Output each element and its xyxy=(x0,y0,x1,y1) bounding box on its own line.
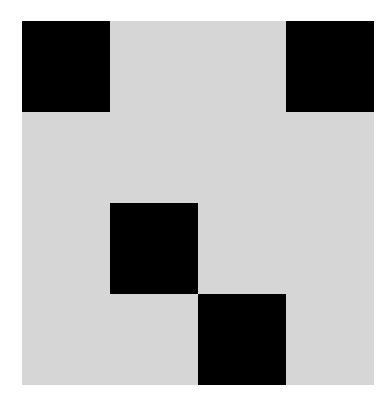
empty-cell-r3-c1[interactable] xyxy=(110,294,198,385)
filled-cell-r2-c1[interactable] xyxy=(110,203,198,294)
empty-cell-r1-c0[interactable] xyxy=(22,112,110,203)
filled-cell-r0-c0[interactable] xyxy=(22,21,110,112)
empty-cell-r1-c3[interactable] xyxy=(286,112,374,203)
empty-cell-r0-c1[interactable] xyxy=(110,21,198,112)
filled-cell-r3-c2[interactable] xyxy=(198,294,286,385)
empty-cell-r0-c2[interactable] xyxy=(198,21,286,112)
empty-cell-r2-c2[interactable] xyxy=(198,203,286,294)
empty-cell-r2-c3[interactable] xyxy=(286,203,374,294)
empty-cell-r1-c1[interactable] xyxy=(110,112,198,203)
empty-cell-r1-c2[interactable] xyxy=(198,112,286,203)
empty-cell-r3-c0[interactable] xyxy=(22,294,110,385)
empty-cell-r3-c3[interactable] xyxy=(286,294,374,385)
filled-cell-r0-c3[interactable] xyxy=(286,21,374,112)
game-board xyxy=(22,21,374,385)
empty-cell-r2-c0[interactable] xyxy=(22,203,110,294)
